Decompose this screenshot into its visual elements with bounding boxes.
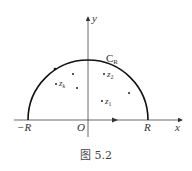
arc-direction-mark bbox=[54, 68, 57, 71]
x-axis-label: x bbox=[174, 121, 180, 133]
neg-r-label: −R bbox=[17, 121, 31, 133]
zk-label: zk bbox=[58, 78, 66, 89]
pos-r-label: R bbox=[143, 121, 151, 133]
origin-label: O bbox=[77, 121, 85, 133]
figure-caption: 图 5.2 bbox=[80, 149, 112, 162]
direction-arrow-icon bbox=[112, 118, 118, 123]
y-axis-label: y bbox=[91, 12, 97, 24]
contour-diagram: y x O −R R CR zk z2 z1 图 5.2 bbox=[0, 0, 192, 171]
z2-label: z2 bbox=[106, 69, 114, 80]
point bbox=[72, 73, 74, 75]
point bbox=[128, 92, 130, 94]
point-zk bbox=[55, 83, 57, 85]
z1-label: z1 bbox=[104, 96, 112, 107]
contour-label: CR bbox=[106, 52, 118, 66]
point-z1 bbox=[101, 100, 103, 102]
point-z2 bbox=[103, 73, 105, 75]
point bbox=[76, 87, 78, 89]
